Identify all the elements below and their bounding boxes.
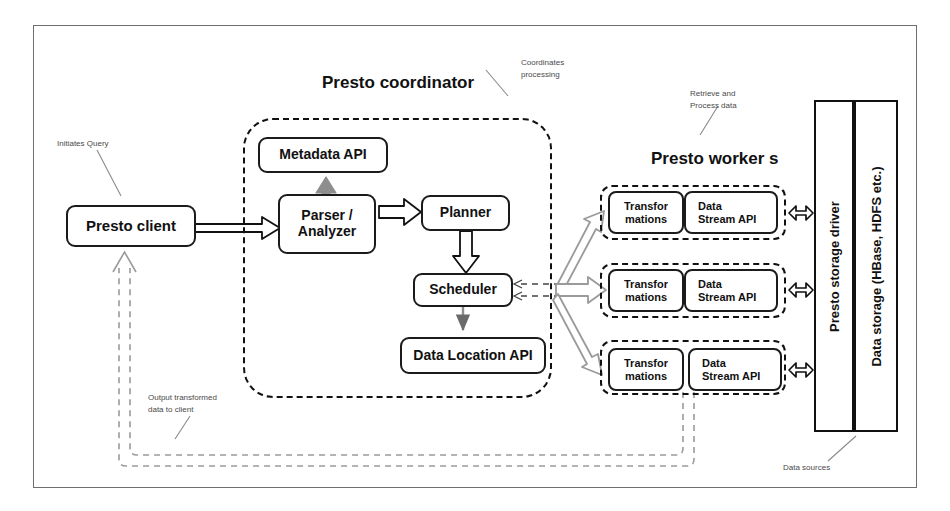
presto-storage-driver-box[interactable]: Presto storage driver (814, 100, 854, 432)
scheduler-label: Scheduler (429, 282, 497, 298)
worker-3-transformations[interactable]: Transfor mations (608, 348, 684, 391)
worker-2-stream-line2: Stream API (698, 291, 756, 303)
worker-2-stream-line1: Data (698, 278, 722, 290)
worker-1-transformations-line1: Transfor (624, 200, 668, 212)
data-location-api-box[interactable]: Data Location API (400, 337, 546, 374)
data-storage-label: Data storage (HBase, HDFS etc.) (869, 166, 884, 366)
data-storage-box[interactable]: Data storage (HBase, HDFS etc.) (854, 100, 898, 432)
note-data-sources: Data sources (783, 462, 830, 474)
page-title-workers: Presto worker s (651, 149, 779, 169)
worker-3-data-stream-api[interactable]: Data Stream API (688, 348, 782, 391)
worker-1-data-stream-api[interactable]: Data Stream API (684, 191, 778, 234)
presto-client-label: Presto client (86, 218, 176, 235)
worker-3-transformations-line1: Transfor (624, 357, 668, 369)
worker-2-transformations-line1: Transfor (624, 278, 668, 290)
diagram-canvas: Presto coordinator Presto worker s Initi… (0, 0, 950, 511)
note-coordinates-processing: Coordinates processing (521, 57, 564, 80)
worker-1-transformations[interactable]: Transfor mations (608, 191, 684, 234)
planner-label: Planner (440, 205, 491, 221)
worker-3-transformations-line2: mations (625, 370, 667, 382)
note-coordinates-line1: Coordinates (521, 58, 564, 67)
note-coordinates-line2: processing (521, 70, 560, 79)
data-location-api-label: Data Location API (413, 348, 532, 364)
note-retrieve-process: Retrieve and Process data (690, 88, 737, 111)
presto-storage-driver-label: Presto storage driver (827, 201, 842, 332)
scheduler-box[interactable]: Scheduler (413, 273, 513, 307)
worker-2-transformations-line2: mations (625, 291, 667, 303)
worker-1-stream-line1: Data (698, 200, 722, 212)
metadata-api-box[interactable]: Metadata API (258, 137, 388, 173)
parser-analyzer-box[interactable]: Parser / Analyzer (278, 194, 376, 254)
page-title-coordinator: Presto coordinator (322, 73, 474, 93)
note-output-line2: data to client (148, 405, 193, 414)
parser-line2: Analyzer (298, 224, 356, 240)
presto-client-box[interactable]: Presto client (66, 205, 196, 247)
metadata-api-label: Metadata API (279, 147, 366, 163)
worker-2-data-stream-api[interactable]: Data Stream API (684, 269, 778, 312)
worker-3-stream-line1: Data (702, 357, 726, 369)
worker-3-stream-line2: Stream API (702, 370, 760, 382)
note-retrieve-line1: Retrieve and (690, 89, 735, 98)
worker-1-stream-line2: Stream API (698, 213, 756, 225)
note-retrieve-line2: Process data (690, 101, 737, 110)
worker-2-transformations[interactable]: Transfor mations (608, 269, 684, 312)
note-initiates-query: Initiates Query (57, 138, 109, 150)
planner-box[interactable]: Planner (421, 195, 510, 231)
parser-line1: Parser / (301, 208, 352, 224)
note-output-transformed: Output transformed data to client (148, 392, 217, 415)
worker-1-transformations-line2: mations (625, 213, 667, 225)
note-output-line1: Output transformed (148, 393, 217, 402)
